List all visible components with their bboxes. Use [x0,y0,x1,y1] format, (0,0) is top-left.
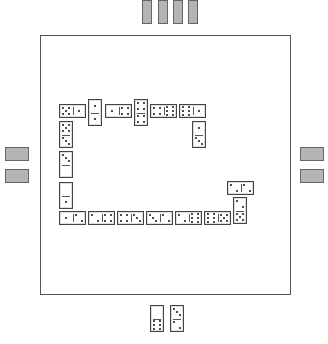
domino-divider [73,214,74,222]
pip [143,121,145,123]
face-down-tile [158,0,168,24]
played-domino [59,121,73,148]
pip [153,324,155,326]
domino-divider [193,107,194,115]
pip [62,107,64,109]
pip [91,214,93,216]
pip [139,220,141,222]
played-domino [117,211,144,225]
pip [68,124,70,126]
pip [236,213,238,215]
pip [104,220,106,222]
played-domino [88,211,115,225]
pip [242,219,244,221]
pip [153,320,155,322]
pip [136,217,138,219]
pip [213,217,215,219]
pip [207,217,209,219]
pip [198,127,200,129]
pip [195,137,197,139]
pip [191,217,193,219]
pip [213,221,215,223]
pip [153,107,155,109]
pip [159,320,161,322]
pip [182,110,184,112]
domino-divider [62,165,70,166]
played-domino [88,99,102,126]
pip [121,107,123,109]
pip [65,201,67,203]
pip [166,114,168,116]
hand-domino[interactable] [150,305,164,332]
face-down-tile [142,0,152,24]
pip [239,216,241,218]
played-domino [59,211,86,225]
pip [94,105,96,107]
pip [176,311,178,313]
pip [236,190,238,192]
pip [65,157,67,159]
pip [173,321,175,323]
pip [201,143,203,145]
pip [143,108,145,110]
face-down-tile [5,169,29,183]
domino-divider [236,211,244,212]
domino-divider [91,113,99,114]
pip [127,107,129,109]
pip [111,110,113,112]
pip [226,220,228,222]
pip [62,113,64,115]
pip [242,213,244,215]
pip [188,114,190,116]
pip [184,220,186,222]
pip [159,113,161,115]
pip [162,214,164,216]
face-down-tile [188,0,198,24]
pip [207,221,209,223]
domino-divider [119,107,120,115]
domino-divider [218,214,219,222]
pip [172,110,174,112]
face-down-tile [300,169,324,183]
pip [137,108,139,110]
played-domino [59,104,86,118]
pip [62,124,64,126]
domino-divider [62,196,70,197]
domino-divider [241,184,242,192]
domino-divider [173,319,181,320]
played-domino [233,197,247,224]
pip [137,102,139,104]
pip [110,220,112,222]
pip [153,328,155,330]
played-domino [134,99,148,126]
pip [249,190,251,192]
pip [78,110,80,112]
pip [182,106,184,108]
pip [62,154,64,156]
pip [127,113,129,115]
pip [159,324,161,326]
pip [137,115,139,117]
pip [220,220,222,222]
pip [179,314,181,316]
pip [188,106,190,108]
domino-divider [160,214,161,222]
pip [68,160,70,162]
pip [149,214,151,216]
domino-divider [189,214,190,222]
pip [166,106,168,108]
hand-domino[interactable] [170,305,184,332]
pip [94,118,96,120]
pip [65,110,67,112]
domino-divider [131,214,132,222]
pip [97,220,99,222]
pip [126,220,128,222]
pip [62,137,64,139]
pip [173,308,175,310]
game-board [40,35,291,295]
pip [226,214,228,216]
pip [236,200,238,202]
pip [159,107,161,109]
domino-divider [62,135,70,136]
pip [126,214,128,216]
